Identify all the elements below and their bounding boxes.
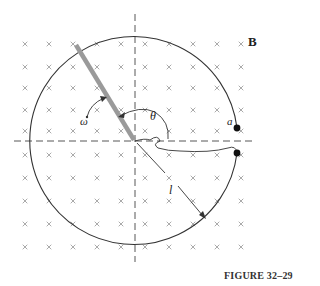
field-mark (23, 222, 28, 227)
field-mark (191, 176, 196, 181)
field-mark (47, 86, 52, 91)
field-mark (47, 65, 52, 70)
field-mark (239, 176, 244, 181)
field-mark (119, 129, 124, 134)
field-mark (71, 199, 76, 204)
length-label: l (169, 184, 172, 196)
field-mark (71, 153, 76, 158)
field-mark (47, 176, 52, 181)
field-mark (215, 222, 220, 227)
field-mark (47, 153, 52, 158)
field-mark (71, 245, 76, 250)
figure-caption: FIGURE 32–29 (224, 271, 293, 281)
length-indicator-upper (137, 143, 165, 173)
field-mark (215, 129, 220, 134)
field-mark (95, 153, 100, 158)
omega-arc (87, 98, 104, 117)
field-mark (239, 65, 244, 70)
field-mark (23, 199, 28, 204)
field-mark (71, 65, 76, 70)
field-mark (191, 129, 196, 134)
contact-point-lower (234, 150, 241, 157)
theta-arc (120, 109, 168, 139)
field-mark (23, 153, 28, 158)
length-indicator-lower (178, 186, 203, 216)
field-mark (191, 245, 196, 250)
field-mark (239, 222, 244, 227)
field-mark (215, 176, 220, 181)
field-mark (143, 129, 148, 134)
field-mark (191, 153, 196, 158)
field-mark (191, 108, 196, 113)
field-mark (167, 176, 172, 181)
field-mark (119, 153, 124, 158)
field-mark (71, 42, 76, 47)
field-mark (47, 222, 52, 227)
field-mark (23, 176, 28, 181)
field-mark (143, 199, 148, 204)
field-mark (143, 42, 148, 47)
field-mark (167, 222, 172, 227)
field-mark (47, 129, 52, 134)
field-mark (167, 245, 172, 250)
field-mark (119, 65, 124, 70)
field-mark (191, 42, 196, 47)
point-a-label: a (227, 116, 233, 127)
field-mark (215, 153, 220, 158)
field-mark (239, 42, 244, 47)
field-mark (119, 108, 124, 113)
field-mark (95, 65, 100, 70)
field-mark (239, 86, 244, 91)
contact-point-a (234, 125, 241, 132)
field-mark (23, 42, 28, 47)
magnetic-field-marks (23, 42, 244, 250)
field-mark (95, 222, 100, 227)
field-mark (215, 65, 220, 70)
field-mark (119, 86, 124, 91)
field-mark (119, 199, 124, 204)
field-mark (215, 245, 220, 250)
field-mark (119, 245, 124, 250)
field-mark (23, 245, 28, 250)
field-mark (119, 176, 124, 181)
field-mark (95, 129, 100, 134)
field-mark (167, 153, 172, 158)
omega-label: ω (80, 116, 88, 127)
field-mark (143, 86, 148, 91)
field-mark (167, 199, 172, 204)
field-mark (71, 86, 76, 91)
field-mark (143, 65, 148, 70)
field-mark (23, 129, 28, 134)
field-mark (143, 245, 148, 250)
field-mark (239, 245, 244, 250)
field-mark (71, 176, 76, 181)
field-mark (119, 42, 124, 47)
field-mark (215, 86, 220, 91)
field-mark (167, 65, 172, 70)
field-mark (119, 222, 124, 227)
field-mark (95, 108, 100, 113)
field-mark (191, 65, 196, 70)
omega-arrowhead (100, 96, 107, 102)
circular-rail (30, 37, 237, 245)
field-mark (71, 108, 76, 113)
field-mark (23, 86, 28, 91)
field-mark (47, 245, 52, 250)
theta-label: θ (150, 110, 156, 122)
field-mark (215, 42, 220, 47)
field-mark (191, 86, 196, 91)
field-mark (23, 108, 28, 113)
field-mark (95, 199, 100, 204)
field-mark (95, 245, 100, 250)
field-mark (239, 108, 244, 113)
field-mark (95, 86, 100, 91)
field-mark (215, 108, 220, 113)
field-mark (95, 176, 100, 181)
field-mark (47, 108, 52, 113)
magnetic-field-label: B (248, 35, 257, 48)
connecting-wire (135, 137, 237, 153)
field-mark (143, 108, 148, 113)
field-mark (167, 86, 172, 91)
field-mark (167, 108, 172, 113)
field-mark (143, 222, 148, 227)
